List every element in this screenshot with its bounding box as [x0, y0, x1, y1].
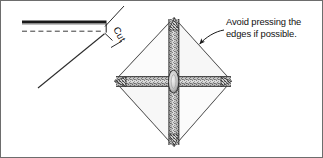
center-hub — [168, 70, 178, 93]
technical-illustration-figure: Cut — [0, 0, 323, 158]
illustration-canvas: Cut — [0, 0, 323, 158]
avoid-pressing-line-2: edges if possible. — [226, 28, 297, 39]
avoid-pressing-line-1: Avoid pressing the — [226, 16, 301, 27]
